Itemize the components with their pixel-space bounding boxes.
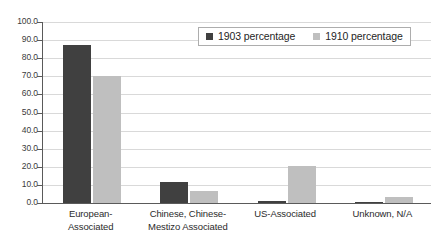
legend-label-1903: 1903 percentage xyxy=(218,30,295,42)
y-tick-label: 50.0 xyxy=(2,108,38,116)
x-axis-label-line: Chinese, Chinese- xyxy=(139,208,236,221)
legend-label-1910: 1910 percentage xyxy=(325,30,402,42)
legend: 1903 percentage 1910 percentage xyxy=(198,27,411,46)
y-tick-label: 70.0 xyxy=(2,71,38,79)
y-tick-label: 80.0 xyxy=(2,53,38,61)
x-axis-label: Chinese, Chinese-Mestizo Associated xyxy=(139,208,236,233)
legend-swatch-1910 xyxy=(313,33,320,40)
y-tick-label: 60.0 xyxy=(2,89,38,97)
bar[interactable] xyxy=(288,166,316,203)
legend-item-1903[interactable]: 1903 percentage xyxy=(206,30,295,42)
y-tick-label: 10.0 xyxy=(2,180,38,188)
bar-group xyxy=(42,22,139,203)
x-axis-label: European-Associated xyxy=(42,208,139,233)
x-axis-label-line: US-Associated xyxy=(237,208,334,221)
x-axis-label-line: Mestizo Associated xyxy=(139,221,236,234)
bar-group xyxy=(334,22,431,203)
y-tick-label: 30.0 xyxy=(2,144,38,152)
bar[interactable] xyxy=(93,76,121,203)
legend-swatch-1903 xyxy=(206,33,213,40)
x-axis-label-line: European- xyxy=(42,208,139,221)
bar-group xyxy=(139,22,236,203)
bar-group xyxy=(237,22,334,203)
bar[interactable] xyxy=(190,191,218,203)
x-axis-label-line: Associated xyxy=(42,221,139,234)
y-tick-label: 40.0 xyxy=(2,126,38,134)
legend-item-1910[interactable]: 1910 percentage xyxy=(313,30,402,42)
y-axis-line xyxy=(42,22,43,204)
plot-area xyxy=(42,22,431,203)
y-tick-label: 90.0 xyxy=(2,35,38,43)
y-tick-label: 0.0 xyxy=(2,198,38,206)
y-tick-label: 100.0 xyxy=(2,17,38,25)
x-axis-label: Unknown, N/A xyxy=(334,208,431,221)
y-tick-label: 20.0 xyxy=(2,162,38,170)
bar[interactable] xyxy=(160,182,188,203)
x-axis-label: US-Associated xyxy=(237,208,334,221)
bar[interactable] xyxy=(63,45,91,203)
x-axis-label-line: Unknown, N/A xyxy=(334,208,431,221)
bar-chart: 0.010.020.030.040.050.060.070.080.090.01… xyxy=(0,0,440,247)
x-axis-line xyxy=(42,203,431,204)
